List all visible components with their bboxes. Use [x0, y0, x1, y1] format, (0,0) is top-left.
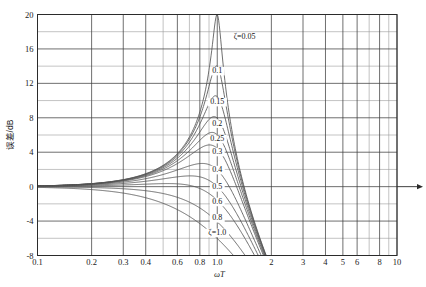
x-tick-label: 4 [323, 257, 328, 267]
x-tick-label: 0.6 [172, 257, 183, 267]
x-tick-label: 0.4 [140, 257, 151, 267]
x-tick-label: 0.1 [32, 257, 43, 267]
y-tick-label: -4 [26, 216, 34, 226]
y-tick-label: 16 [25, 44, 34, 54]
y-tick-label: 8 [29, 113, 33, 123]
curve-label: 0.1 [212, 66, 222, 75]
curve-label: 0.5 [212, 182, 222, 191]
curve-label: 0.25 [210, 134, 224, 143]
curve-label: 0.8 [212, 213, 222, 222]
x-tick-label: 3 [301, 257, 305, 267]
curve-label: 0.4 [212, 165, 222, 174]
x-tick-label: 1.0 [212, 257, 223, 267]
x-tick-label: 2 [269, 257, 273, 267]
x-tick-label: 0.8 [195, 257, 206, 267]
y-axis-title: 误差/dB [5, 119, 15, 150]
y-tick-label: -8 [26, 251, 33, 261]
error-vs-frequency-chart: 0.10.20.30.40.60.81.023456810 201612840-… [0, 0, 426, 287]
x-tick-label: 0.3 [118, 257, 129, 267]
x-tick-label: 6 [355, 257, 359, 267]
x-axis-title: ωT [214, 269, 226, 279]
y-tick-label: 0 [29, 182, 33, 192]
y-tick-label: 12 [25, 78, 34, 88]
chart-figure: 0.10.20.30.40.60.81.023456810 201612840-… [0, 0, 426, 287]
curve-label: 0.6 [212, 197, 222, 206]
x-tick-label: 5 [341, 257, 345, 267]
x-tick-label: 10 [393, 257, 402, 267]
curve-label: 0.15 [210, 97, 224, 106]
curve-label: 0.3 [212, 147, 222, 156]
x-tick-label: 8 [377, 257, 381, 267]
curve-label: ζ=1.0 [208, 228, 226, 237]
x-tick-label: 0.2 [86, 257, 97, 267]
curve-label: ζ=0.05 [234, 32, 256, 41]
curve-label: 0.2 [212, 119, 222, 128]
y-tick-label: 20 [25, 10, 34, 20]
